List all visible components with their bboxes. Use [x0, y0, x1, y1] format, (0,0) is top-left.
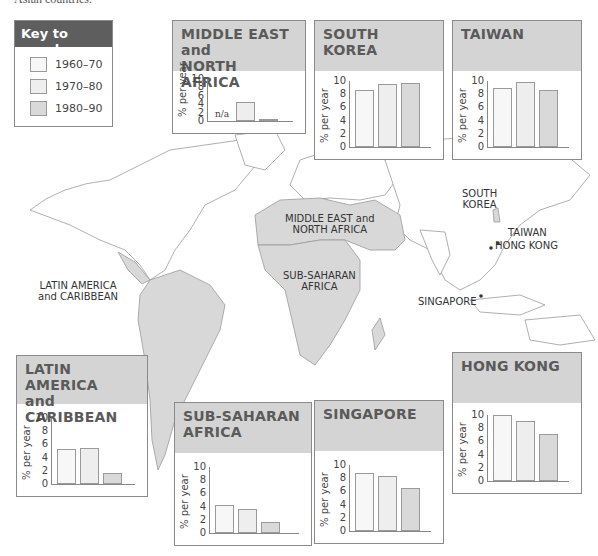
na-annotation: n/a [215, 109, 229, 119]
y-tick-label: 6 [332, 101, 346, 112]
ssa-region [258, 240, 360, 365]
legend-label: 1970–80 [55, 80, 103, 93]
x-axis [349, 147, 431, 148]
y-axis [209, 467, 210, 533]
map-label-mena: MIDDLE EAST and NORTH AFRICA [285, 213, 375, 235]
map-label-hongkong: HONG KONG [495, 240, 558, 251]
bar-1980–90 [401, 83, 420, 147]
chart-title-line: TAIWAN [461, 26, 573, 42]
y-axis-label: % per year [179, 474, 190, 529]
bar-1980–90 [261, 522, 280, 533]
chart-title-line: SOUTH KOREA [323, 26, 435, 58]
australia [525, 315, 595, 345]
y-axis [207, 79, 208, 121]
bar-1960–70 [57, 449, 76, 484]
chart-panel-hongkong: HONG KONG% per year0246810 [452, 352, 582, 494]
x-axis [487, 481, 569, 482]
chart-panel-mena: MIDDLE EASTandNORTH AFRICA% per year0246… [172, 20, 306, 134]
chart-panel-korea: SOUTH KOREA% per year0246810 [314, 20, 444, 160]
x-axis [51, 484, 135, 485]
bar-1970–80 [378, 476, 397, 531]
y-tick-label: 6 [332, 485, 346, 496]
y-axis-label: % per year [319, 472, 330, 527]
legend-key: Key to graphs 1960–70 1970–80 1980–90 [14, 20, 113, 127]
legend-swatch-1960-70 [30, 57, 47, 72]
legend-label: 1980–90 [55, 102, 103, 115]
chart-title-line: HONG KONG [461, 358, 573, 374]
y-tick-label: 2 [34, 465, 48, 476]
y-tick-label: 0 [470, 475, 484, 486]
y-axis-label: % per year [457, 88, 468, 143]
y-axis-label: % per year [457, 422, 468, 477]
bar-1960–70 [493, 88, 512, 147]
chart-title: SINGAPORE [315, 401, 443, 451]
map-label-mena-line2: NORTH AFRICA [285, 224, 375, 235]
y-tick-label: 2 [192, 514, 206, 525]
x-axis [349, 531, 431, 532]
y-tick-label: 0 [470, 141, 484, 152]
bar-1980–90 [539, 90, 558, 147]
chart-title-line: AFRICA [183, 424, 303, 440]
y-tick-label: 4 [192, 501, 206, 512]
y-tick-label: 6 [34, 438, 48, 449]
y-tick-label: 8 [470, 88, 484, 99]
bar-1960–70 [215, 505, 234, 533]
chart-panel-ssa: SUB-SAHARANAFRICA% per year0246810 [174, 402, 312, 546]
indonesia [470, 295, 545, 315]
map-label-taiwan: TAIWAN [508, 227, 547, 238]
legend-label: 1960–70 [55, 58, 103, 71]
x-axis [487, 147, 569, 148]
singapore-dot [479, 294, 483, 298]
y-tick-label: 6 [470, 435, 484, 446]
y-tick-label: 10 [332, 75, 346, 86]
y-axis [487, 415, 488, 481]
y-tick-label: 10 [192, 461, 206, 472]
y-tick-label: 0 [332, 141, 346, 152]
y-tick-label: 0 [192, 527, 206, 538]
y-axis [51, 418, 52, 484]
chart-panel-singapore: SINGAPORE% per year0246810 [314, 400, 444, 544]
north-america [30, 140, 260, 280]
y-tick-label: 2 [470, 462, 484, 473]
map-label-singapore: SINGAPORE [418, 296, 477, 307]
chart-title-line: SUB-SAHARAN [183, 408, 303, 424]
bar-1970–80 [516, 82, 535, 147]
legend-title: Key to graphs [15, 21, 112, 47]
y-tick-label: 4 [332, 115, 346, 126]
chart-title-line: SINGAPORE [323, 406, 435, 422]
map-label-korea-line1: SOUTH [462, 188, 497, 199]
map-label-korea: SOUTH KOREA [462, 188, 497, 210]
bar-1970–80 [516, 421, 535, 481]
bar-1970–80 [236, 102, 255, 121]
bar-1980–90 [259, 119, 278, 121]
y-tick-label: 8 [192, 474, 206, 485]
x-axis [209, 533, 299, 534]
legend-item-1980-90: 1980–90 [30, 101, 103, 116]
map-label-mena-line1: MIDDLE EAST and [285, 213, 375, 224]
y-tick-label: 4 [470, 115, 484, 126]
legend-item-1970-80: 1970–80 [30, 79, 103, 94]
chart-title-line: and [181, 42, 297, 58]
y-tick-label: 10 [470, 409, 484, 420]
y-tick-label: 2 [470, 128, 484, 139]
y-tick-label: 6 [470, 101, 484, 112]
y-tick-label: 8 [34, 425, 48, 436]
y-tick-label: 10 [190, 73, 204, 84]
legend-swatch-1970-80 [30, 79, 47, 94]
chart-panel-latam: LATIN AMERICAand CARIBBEAN% per year0246… [16, 355, 148, 497]
legend-swatch-1980-90 [30, 101, 47, 116]
chart-title: HONG KONG [453, 353, 581, 403]
bar-1980–90 [103, 473, 122, 484]
x-axis [207, 121, 293, 122]
y-tick-label: 10 [332, 459, 346, 470]
y-axis-label: % per year [319, 88, 330, 143]
y-tick-label: 4 [34, 452, 48, 463]
chart-panel-taiwan: TAIWAN% per year0246810 [452, 20, 582, 160]
chart-title: SUB-SAHARANAFRICA [175, 403, 311, 453]
y-tick-label: 8 [332, 472, 346, 483]
y-tick-label: 8 [332, 88, 346, 99]
bar-1970–80 [80, 448, 99, 484]
map-label-latam-line2: and CARIBBEAN [38, 291, 118, 302]
chart-title: SOUTH KOREA [315, 21, 443, 71]
y-tick-label: 6 [192, 487, 206, 498]
